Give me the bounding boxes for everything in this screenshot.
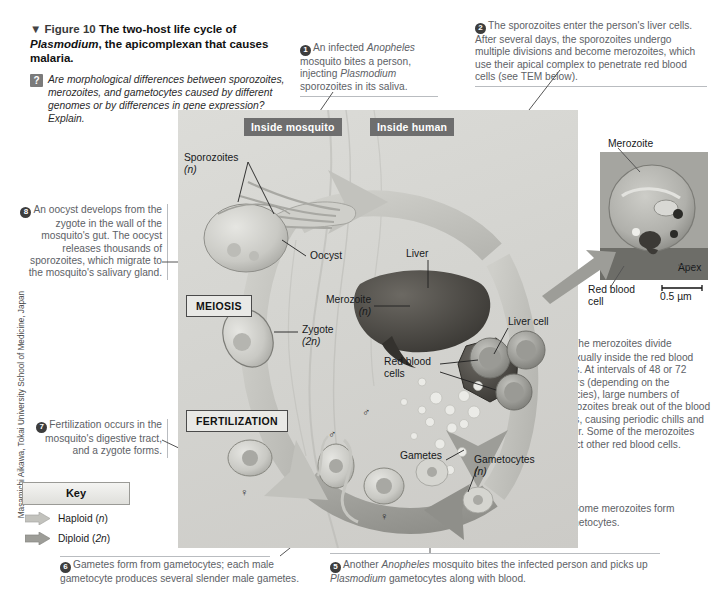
label-liver-cell: Liver cell	[508, 316, 549, 328]
figure-root: ▼ Figure 10 The two-host life cycle of P…	[0, 0, 719, 599]
label-sporozoites: Sporozoites(n)	[184, 152, 238, 176]
callout-1: 1An infected Anopheles mosquito bites a …	[300, 42, 438, 97]
diploid-arrow-icon	[25, 532, 51, 545]
tem-scale-text: 0.5 µm	[660, 291, 706, 303]
key-item-haploid: Haploid (n)	[22, 512, 130, 525]
symbol-female-1: ♀	[240, 486, 248, 498]
callout-8-text: An oocyst develops from the zygote in th…	[29, 204, 162, 278]
tem-label-red-blood-cell: Red bloodcell	[588, 284, 635, 308]
label-gametes: Gametes	[400, 450, 442, 462]
haploid-arrow-icon	[25, 512, 51, 525]
callout-5-text: Another Anopheles mosquito bites the inf…	[330, 559, 648, 584]
callout-2: 2The sporozoites enter the person's live…	[475, 20, 707, 87]
key-label-diploid: Diploid (2n)	[58, 533, 110, 544]
key-label-haploid: Haploid (n)	[58, 513, 108, 524]
label-oocyst: Oocyst	[310, 250, 342, 262]
figure-caret-icon: ▼	[30, 23, 41, 35]
label-red-blood-cells: Red bloodcells	[384, 356, 431, 380]
label-liver: Liver	[406, 248, 428, 260]
callout-1-number: 1	[300, 45, 311, 56]
tem-micrograph	[600, 152, 708, 280]
callout-8-number: 8	[20, 207, 31, 218]
label-merozoite: Merozoite(n)	[326, 294, 371, 318]
callout-6-text: Gametes form from gametocytes; each male…	[60, 559, 299, 584]
callout-7: 7Fertilization occurs in the mosquito's …	[30, 419, 168, 458]
tem-label-merozoite: Merozoite	[608, 138, 653, 150]
label-gametocytes: Gametocytes(n)	[474, 454, 535, 478]
symbol-female-2: ♀	[380, 510, 388, 522]
callout-3-text: The merozoites divide asexually inside t…	[559, 338, 710, 450]
callout-2-number: 2	[475, 23, 486, 34]
tem-scale-bar: 0.5 µm	[660, 284, 706, 303]
process-label-fertilization: FERTILIZATION	[186, 410, 288, 432]
callout-2-text: The sporozoites enter the person's liver…	[475, 20, 695, 82]
callout-5-rule	[330, 553, 660, 554]
symbol-male-2: ♂	[362, 406, 370, 418]
stage-label-human: Inside human	[370, 118, 454, 136]
key-title: Key	[22, 482, 130, 505]
callout-6-rule	[60, 556, 270, 557]
question-badge-icon: ?	[30, 74, 43, 87]
tem-label-apex: Apex	[678, 262, 701, 274]
callout-8: 8An oocyst develops from the zygote in t…	[18, 204, 168, 280]
key-item-diploid: Diploid (2n)	[22, 532, 130, 545]
life-cycle-illustration: Inside mosquito Inside human MEIOSIS FER…	[178, 110, 578, 548]
label-zygote: Zygote(2n)	[302, 324, 333, 348]
callout-7-text: Fertilization occurs in the mosquito's d…	[45, 419, 162, 456]
key-legend: Key Haploid (n) Diploid (2n)	[22, 482, 130, 545]
tem-artwork	[600, 152, 708, 280]
figure-title-part1: The two-host life cycle of	[99, 23, 236, 35]
callout-1-text: An infected Anopheles mosquito bites a p…	[300, 42, 415, 92]
figure-title-species: Plasmodium	[30, 38, 98, 50]
callout-5-number: 5	[330, 562, 341, 573]
figure-number: Figure 10	[45, 23, 96, 35]
symbol-male-1: ♂	[328, 428, 336, 440]
callout-6: 6Gametes form from gametocytes; each mal…	[60, 559, 305, 585]
page-title: ▼ Figure 10 The two-host life cycle of P…	[30, 22, 285, 66]
stage-label-mosquito: Inside mosquito	[244, 118, 342, 136]
callout-6-number: 6	[60, 562, 71, 573]
callout-7-number: 7	[36, 422, 47, 433]
callout-5: 5Another Anopheles mosquito bites the in…	[330, 559, 662, 585]
process-label-meiosis: MEIOSIS	[186, 295, 252, 317]
